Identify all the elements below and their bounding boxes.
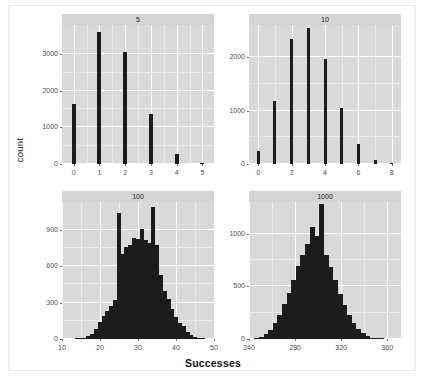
panel-plot-area xyxy=(62,25,214,164)
y-tick-mark xyxy=(60,266,62,267)
y-tick-label: 2000 xyxy=(221,53,245,61)
x-tick-mark xyxy=(295,339,296,341)
x-tick-mark xyxy=(177,164,178,166)
x-tick-mark xyxy=(325,164,326,166)
x-tick-label: 5 xyxy=(189,168,215,177)
histogram-bar xyxy=(357,144,360,164)
gridline-vertical-minor xyxy=(364,202,365,339)
x-tick-label: 1 xyxy=(86,168,112,177)
y-tick-label: 1000 xyxy=(34,123,58,131)
x-tick-label: 2 xyxy=(112,168,138,177)
y-tick-label: 0 xyxy=(34,335,58,343)
y-axis-title: count xyxy=(14,70,28,150)
gridline-vertical-minor xyxy=(112,25,113,164)
gridline-vertical xyxy=(202,25,203,164)
x-tick-label: 240 xyxy=(236,343,262,352)
x-tick-mark xyxy=(341,339,342,341)
y-tick-label: 1000 xyxy=(221,107,245,115)
y-tick-label: 1000 xyxy=(221,230,245,238)
gridline-vertical-minor xyxy=(138,25,139,164)
y-tick-mark xyxy=(60,127,62,128)
x-tick-label: 0 xyxy=(245,168,271,177)
y-tick-mark xyxy=(247,164,249,165)
histogram-bar xyxy=(374,160,377,164)
y-tick-label: 900 xyxy=(34,226,58,234)
gridline-vertical xyxy=(387,202,388,339)
x-tick-label: 0 xyxy=(61,168,87,177)
histogram-bar xyxy=(97,32,101,164)
histogram-bar xyxy=(324,59,327,164)
y-tick-label: 0 xyxy=(221,160,245,168)
y-tick-mark xyxy=(247,234,249,235)
gridline-horizontal xyxy=(62,126,214,127)
y-tick-mark xyxy=(60,303,62,304)
histogram-bar xyxy=(379,338,384,339)
x-tick-label: 4 xyxy=(312,168,338,177)
histogram-bar xyxy=(307,28,310,164)
x-tick-label: 20 xyxy=(87,343,113,352)
x-tick-label: 280 xyxy=(282,343,308,352)
gridline-vertical xyxy=(258,25,259,164)
y-tick-label: 300 xyxy=(34,299,58,307)
x-tick-mark xyxy=(99,164,100,166)
gridline-vertical xyxy=(392,25,393,164)
x-tick-label: 360 xyxy=(374,343,400,352)
x-tick-label: 2 xyxy=(279,168,305,177)
x-axis-title: Successes xyxy=(0,357,426,369)
y-tick-mark xyxy=(60,230,62,231)
histogram-bar xyxy=(273,101,276,164)
facet-panel-10: 1001000200002468 xyxy=(249,14,401,180)
panel-plot-area xyxy=(249,202,401,339)
y-tick-mark xyxy=(60,91,62,92)
gridline-vertical xyxy=(249,202,250,339)
x-tick-mark xyxy=(100,339,101,341)
facet-panel-1000: 100005001000240280320360 xyxy=(249,191,401,355)
gridline-vertical-minor xyxy=(375,25,376,164)
x-tick-mark xyxy=(138,339,139,341)
x-tick-mark xyxy=(214,339,215,341)
panel-plot-area xyxy=(249,25,401,164)
gridline-horizontal xyxy=(62,229,214,230)
gridline-vertical-minor xyxy=(195,202,196,339)
x-tick-label: 4 xyxy=(164,168,190,177)
gridline-horizontal xyxy=(249,56,401,57)
histogram-bar xyxy=(257,151,260,164)
histogram-bar xyxy=(123,52,127,164)
gridline-horizontal xyxy=(62,53,214,54)
x-tick-label: 10 xyxy=(49,343,75,352)
histogram-bar xyxy=(175,154,179,164)
gridline-horizontal xyxy=(249,233,401,234)
y-tick-mark xyxy=(247,57,249,58)
ggplot-figure: count Successes 50100020003000012345 100… xyxy=(0,0,426,381)
x-tick-label: 30 xyxy=(125,343,151,352)
x-tick-label: 8 xyxy=(379,168,405,177)
x-tick-mark xyxy=(249,339,250,341)
x-tick-mark xyxy=(392,164,393,166)
y-tick-label: 3000 xyxy=(34,50,58,58)
histogram-bar xyxy=(72,104,76,164)
x-tick-mark xyxy=(258,164,259,166)
x-tick-label: 320 xyxy=(328,343,354,352)
x-tick-mark xyxy=(62,339,63,341)
y-tick-label: 600 xyxy=(34,262,58,270)
gridline-vertical-minor xyxy=(87,25,88,164)
histogram-bar xyxy=(290,39,293,164)
x-tick-mark xyxy=(74,164,75,166)
gridline-vertical xyxy=(177,25,178,164)
y-tick-mark xyxy=(60,164,62,165)
x-tick-mark xyxy=(387,339,388,341)
histogram-bar xyxy=(200,338,205,339)
x-tick-label: 6 xyxy=(345,168,371,177)
facet-strip-label: 10 xyxy=(249,14,401,25)
facet-strip-label: 1000 xyxy=(249,191,401,202)
gridline-horizontal-minor xyxy=(62,108,214,109)
gridline-horizontal-minor xyxy=(62,72,214,73)
gridline-vertical-minor xyxy=(190,25,191,164)
x-tick-label: 50 xyxy=(201,343,227,352)
x-tick-mark xyxy=(358,164,359,166)
x-tick-mark xyxy=(151,164,152,166)
x-tick-mark xyxy=(292,164,293,166)
gridline-vertical-minor xyxy=(81,202,82,339)
x-tick-mark xyxy=(125,164,126,166)
y-tick-label: 0 xyxy=(221,335,245,343)
